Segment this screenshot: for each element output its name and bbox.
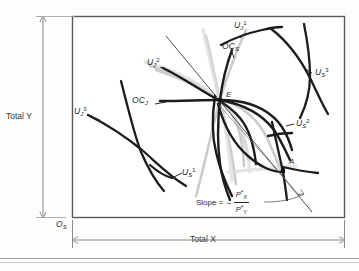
edgeworth-box-figure <box>0 0 359 271</box>
page-rule-secondary <box>0 262 359 263</box>
price-x-numerator: P*X <box>234 190 249 201</box>
curve-label-uj1: UJ1 <box>234 20 247 31</box>
point-label-a: A <box>289 157 294 166</box>
slope-minus-sign: − <box>226 198 231 208</box>
curve-label-us1: US1 <box>182 167 196 178</box>
figure-canvas <box>0 0 359 271</box>
curve-label-ocs: OCS <box>222 41 239 52</box>
point-marker-e <box>218 98 222 102</box>
curve-label-us3: US3 <box>315 67 329 78</box>
curve-label-uj3: UJ3 <box>74 106 87 117</box>
curve-label-ocj: OCJ <box>132 95 148 106</box>
price-y-denominator: P*Y <box>234 205 249 216</box>
total-y-measure <box>40 16 46 218</box>
axis-label-total-y: Total Y <box>6 111 32 121</box>
price-ratio-fraction: P*X P*Y <box>234 190 249 215</box>
curve-label-uj2: UJ2 <box>147 57 160 68</box>
origin-label-os: OS <box>56 219 67 230</box>
point-label-e: E <box>226 90 231 99</box>
page-rule-primary <box>0 258 359 259</box>
slope-annotation-text: Slope = <box>196 198 223 207</box>
curve-label-us2: US2 <box>296 118 310 129</box>
total-y-tick-marks <box>36 17 75 218</box>
slope-annotation: Slope = − P*X P*Y <box>196 190 249 215</box>
axis-label-total-x: Total X <box>190 234 216 244</box>
point-marker-a <box>281 168 285 172</box>
